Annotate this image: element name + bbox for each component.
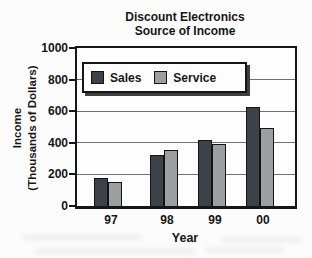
- x-tick-label-99: 99: [200, 213, 230, 227]
- scan-noise: [35, 248, 195, 255]
- scan-noise: [22, 234, 142, 241]
- x-tick-label-97: 97: [96, 213, 126, 227]
- legend-label-sales: Sales: [110, 71, 141, 85]
- bar-service-00: [260, 128, 274, 206]
- legend-swatch-service: [154, 71, 167, 84]
- legend: Sales Service: [82, 62, 247, 93]
- bar-service-98: [164, 150, 178, 206]
- bar-sales-00: [246, 107, 260, 206]
- chart-title-line2: Source of Income: [75, 25, 295, 39]
- y-tick-label-600: 600: [28, 104, 68, 118]
- bar-sales-98: [150, 155, 164, 206]
- y-axis-title-line1: Income: [10, 48, 25, 208]
- legend-swatch-sales: [91, 71, 104, 84]
- y-tick-label-200: 200: [28, 167, 68, 181]
- y-tick-label-400: 400: [28, 136, 68, 150]
- bar-sales-97: [94, 178, 108, 206]
- scan-noise: [222, 236, 302, 243]
- bar-chart-figure: Discount Electronics Source of Income In…: [0, 0, 312, 258]
- x-tick-label-00: 00: [248, 213, 278, 227]
- bar-service-97: [108, 182, 122, 206]
- chart-title-line1: Discount Electronics: [75, 11, 295, 25]
- plot-area: Sales Service: [75, 46, 297, 209]
- bar-service-99: [212, 144, 226, 206]
- y-tick-label-1000: 1000: [28, 41, 68, 55]
- x-tick-label-98: 98: [152, 213, 182, 227]
- scan-noise: [205, 247, 285, 253]
- bar-sales-99: [198, 140, 212, 206]
- chart-title: Discount Electronics Source of Income: [75, 11, 295, 38]
- legend-label-service: Service: [173, 71, 216, 85]
- y-tick-label-0: 0: [28, 199, 68, 213]
- y-tick-label-800: 800: [28, 73, 68, 87]
